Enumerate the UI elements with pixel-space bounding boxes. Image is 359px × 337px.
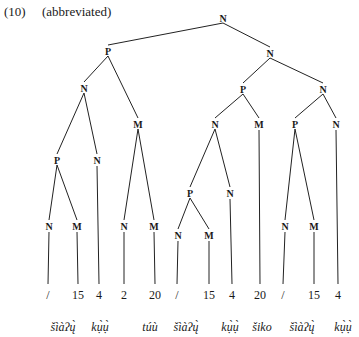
tree-edge (285, 129, 295, 220)
leaf-value: 20 (149, 288, 161, 302)
node-n: N (211, 119, 219, 130)
gloss-word: túù (142, 320, 157, 334)
gloss-word: šiko (252, 320, 271, 334)
tree-edge (57, 93, 84, 154)
gloss-words: šìàʔų̀kụ̀ụ̀túùšìàʔų̀kụ̀ụ̀šikošìàʔų̀kụ̀ụ̀ (51, 320, 352, 334)
leaf-value: 15 (308, 288, 320, 302)
node-n: N (174, 230, 182, 241)
tree-edge (190, 198, 209, 229)
tree-leaves: /154220/15420/154 (46, 288, 341, 302)
leaf-value: 20 (254, 288, 266, 302)
leaf-edge (283, 232, 285, 284)
node-p: P (187, 188, 193, 199)
leaf-edge (48, 232, 49, 284)
node-m: M (149, 221, 159, 232)
leaf-edge (230, 199, 232, 284)
gloss-word: šìàʔų̀ (51, 320, 76, 334)
tree-edge (215, 129, 230, 187)
node-n: N (80, 83, 88, 94)
tree-edge (295, 94, 323, 118)
node-n: N (226, 188, 234, 199)
node-n: N (93, 155, 101, 166)
leaf-edge (177, 241, 178, 284)
node-n: N (332, 119, 340, 130)
tree-edge (215, 94, 243, 118)
leaf-value: 4 (229, 288, 235, 302)
node-n: N (120, 221, 128, 232)
node-m: M (204, 230, 214, 241)
node-m: M (254, 119, 264, 130)
leaf-value: 15 (72, 288, 84, 302)
tree-edge (190, 129, 215, 187)
node-n: N (266, 48, 274, 59)
tree-edge (108, 56, 138, 118)
tree-edge (270, 58, 323, 83)
tree-nodes: NPNNMPNPNNMNMPNNMPNNMNM (45, 13, 340, 241)
node-m: M (72, 221, 82, 232)
tree-edge (108, 23, 223, 45)
leaf-value: 4 (96, 288, 102, 302)
leaf-edge (97, 166, 99, 284)
node-p: P (54, 155, 60, 166)
gloss-word: šìàʔų̀ (174, 320, 199, 334)
gloss-word: kụ̀ụ̀ (221, 320, 238, 334)
tree-edge (138, 129, 154, 220)
tree-edge (323, 94, 336, 118)
node-p: P (240, 84, 246, 95)
syntax-tree: NPNNMPNPNNMNMPNNMPNNMNM /154220/15420/15… (0, 0, 359, 337)
node-n: N (219, 13, 227, 24)
tree-edge (223, 23, 270, 47)
node-m: M (309, 221, 319, 232)
leaf-value: 4 (335, 288, 341, 302)
node-p: P (105, 46, 111, 57)
tree-edge (295, 129, 314, 220)
leaf-value: 2 (121, 288, 127, 302)
leaf-edge (154, 232, 155, 284)
gloss-word: kụ̀ụ̀ (91, 320, 108, 334)
gloss-word: kụ̀ụ̀ (334, 320, 351, 334)
node-n: N (319, 84, 327, 95)
leaf-edge (259, 130, 260, 284)
leaf-edge (336, 130, 338, 284)
node-n: N (45, 221, 53, 232)
leaf-value: 15 (203, 288, 215, 302)
tree-edge (178, 198, 190, 229)
tree-edge (243, 58, 270, 83)
tree-edge (84, 56, 108, 82)
tree-edges (48, 23, 338, 284)
gloss-word: šìàʔų̀ (290, 320, 315, 334)
leaf-value: / (175, 288, 179, 302)
leaf-value: / (281, 288, 285, 302)
leaf-edge (77, 232, 78, 284)
leaf-value: / (46, 288, 50, 302)
tree-edge (243, 94, 259, 118)
tree-edge (57, 165, 77, 220)
tree-edge (49, 165, 57, 220)
node-p: P (292, 119, 298, 130)
node-m: M (133, 119, 143, 130)
tree-edge (84, 93, 97, 154)
node-n: N (281, 221, 289, 232)
tree-edge (124, 129, 138, 220)
